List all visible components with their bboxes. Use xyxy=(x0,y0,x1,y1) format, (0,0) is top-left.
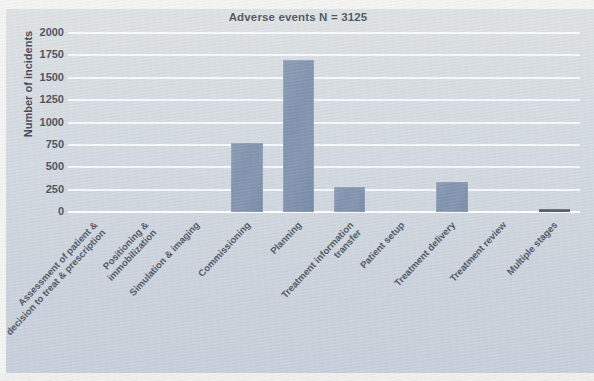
plot-area xyxy=(68,33,580,212)
chart-title: Adverse events N = 3125 xyxy=(68,11,528,23)
y-tick-label: 1750 xyxy=(18,48,64,60)
y-tick-label: 1500 xyxy=(18,71,64,83)
y-tick-label: 0 xyxy=(18,205,64,217)
bar xyxy=(231,143,263,212)
y-tick-label: 250 xyxy=(18,183,64,195)
page-margin-left xyxy=(0,0,6,381)
page-margin-bottom xyxy=(0,373,594,381)
y-tick-label: 1000 xyxy=(18,116,64,128)
x-axis-line xyxy=(68,211,580,213)
y-tick-label: 750 xyxy=(18,138,64,150)
bar xyxy=(539,209,571,212)
page-margin-top xyxy=(0,0,594,9)
bar xyxy=(283,60,315,212)
y-tick-label: 1250 xyxy=(18,93,64,105)
y-tick-label: 2000 xyxy=(18,26,64,38)
bar xyxy=(436,182,468,212)
y-tick-label: 500 xyxy=(18,160,64,172)
bar xyxy=(334,187,366,212)
